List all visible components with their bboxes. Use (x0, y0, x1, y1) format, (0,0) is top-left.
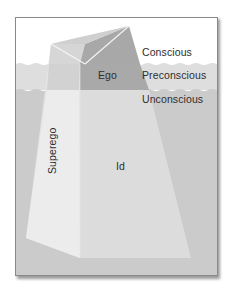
level-label-unconscious: Unconscious (142, 93, 203, 105)
level-label-conscious: Conscious (142, 46, 192, 58)
structure-label-superego: Superego (46, 128, 58, 174)
level-label-preconscious: Preconscious (142, 69, 206, 81)
diagram-frame: Conscious Preconscious Unconscious Ego S… (15, 17, 218, 276)
structure-label-id: Id (116, 160, 125, 172)
structure-label-ego: Ego (98, 69, 117, 81)
